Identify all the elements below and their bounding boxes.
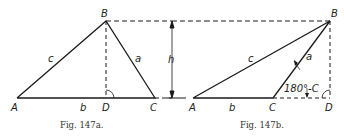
side-b-label: b (229, 102, 235, 113)
side-c-label: c (48, 53, 54, 64)
side-a-label: a (306, 51, 312, 62)
vertex-d-label: D (102, 102, 110, 113)
caption-147a: Fig. 147a. (60, 120, 103, 130)
vertex-b-label: B (331, 8, 338, 19)
figure-147a (17, 21, 172, 98)
vertex-c-label: C (269, 102, 276, 113)
height-label: h (168, 54, 174, 65)
vertex-a-label: A (10, 102, 18, 113)
triangle-diagram: A B C D c a b Fig. 147a. h A B C D c a b… (0, 0, 344, 136)
vertex-d-label: D (325, 102, 333, 113)
side-b-label: b (80, 102, 86, 113)
vertex-b-label: B (101, 8, 108, 19)
angle-label: 180°-C (284, 83, 319, 94)
vertex-c-label: C (150, 102, 157, 113)
side-c-label: c (248, 53, 254, 64)
vertex-a-label: A (188, 102, 196, 113)
side-a-label: a (135, 53, 141, 64)
caption-147b: Fig. 147b. (240, 120, 284, 130)
